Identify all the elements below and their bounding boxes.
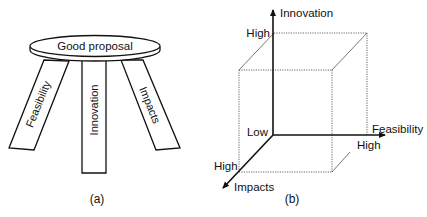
stool-seat: Good proposal — [30, 36, 160, 62]
cube-diagram: Innovation High Low Feasibility High Hig… — [214, 7, 423, 206]
axis-label-innovation: Innovation — [280, 7, 333, 19]
feasibility-high-label: High — [357, 139, 381, 151]
origin-low-label: Low — [247, 126, 269, 138]
axis-label-impacts: Impacts — [234, 181, 275, 193]
figure: Feasibility Innovation Impacts Good prop… — [0, 0, 427, 217]
impacts-high-label: High — [214, 160, 238, 172]
seat-label: Good proposal — [57, 40, 132, 52]
leg-label-innovation: Innovation — [88, 85, 100, 136]
innovation-high-label: High — [246, 27, 270, 39]
axis-label-feasibility: Feasibility — [372, 123, 423, 135]
leg-impacts: Impacts — [121, 60, 180, 150]
leg-innovation: Innovation — [82, 60, 106, 173]
stool-diagram: Feasibility Innovation Impacts Good prop… — [9, 36, 180, 207]
caption-a: (a) — [90, 192, 105, 206]
leg-feasibility: Feasibility — [9, 60, 69, 150]
caption-b: (b) — [285, 192, 300, 206]
